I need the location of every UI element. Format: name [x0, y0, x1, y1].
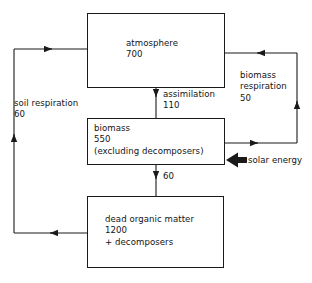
carbon-cycle-diagram: atmosphere 700 biomass 550 (excluding de… [0, 0, 312, 283]
label-soil-respiration: soil respiration 60 [14, 98, 78, 121]
box-dead-organic-matter-label: dead organic matter 1200 + decomposers [105, 214, 194, 248]
soil-respiration-arrow [14, 49, 87, 233]
label-litterfall: 60 [163, 171, 174, 182]
solar-energy-arrow [226, 153, 247, 168]
label-assimilation: assimilation 110 [163, 89, 215, 112]
box-biomass-label: biomass 550 (excluding decomposers) [94, 123, 204, 157]
label-biomass-respiration: biomass respiration 50 [240, 70, 287, 104]
box-atmosphere-label: atmosphere 700 [126, 38, 178, 61]
label-solar-energy: solar energy [248, 155, 302, 166]
